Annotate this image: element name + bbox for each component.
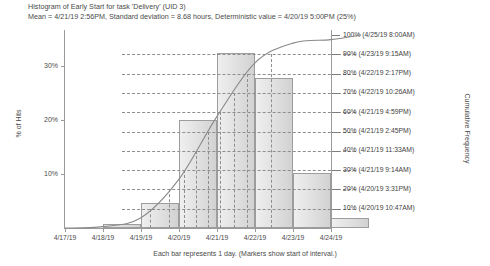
chart-caption: Each bar represents 1 day. (Markers show… bbox=[0, 250, 490, 257]
plot-area: % of Hits Cumulative Frequency 10%20%30%… bbox=[0, 0, 490, 266]
cumulative-curve bbox=[0, 0, 490, 266]
histogram-chart: Histogram of Early Start for task 'Deliv… bbox=[0, 0, 490, 266]
